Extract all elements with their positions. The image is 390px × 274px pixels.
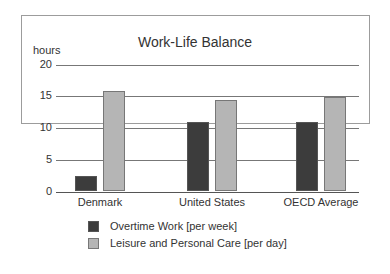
x-category-label: OECD Average (266, 196, 376, 208)
y-tick-label: 15 (30, 89, 52, 101)
bar-overtime-united-states (187, 122, 209, 192)
x-axis-line (56, 192, 359, 193)
y-tick-label: 10 (30, 121, 52, 133)
bar-leisure-oecd-average (324, 97, 346, 192)
legend-label: Leisure and Personal Care [per day] (110, 237, 287, 249)
bar-leisure-denmark (103, 91, 125, 191)
y-tick-label: 20 (30, 58, 52, 70)
bar-overtime-denmark (75, 176, 97, 191)
legend-swatch-overtime (88, 221, 99, 232)
bar-overtime-oecd-average (296, 122, 318, 192)
chart-frame (21, 15, 370, 124)
legend-label: Overtime Work [per week] (110, 220, 237, 232)
x-category-label: Denmark (45, 196, 155, 208)
y-tick-label: 5 (30, 153, 52, 165)
y-axis-label: hours (33, 44, 61, 56)
legend-swatch-leisure (88, 238, 99, 249)
x-category-label: United States (157, 196, 267, 208)
gridline (56, 96, 359, 97)
bar-leisure-united-states (215, 100, 237, 191)
gridline (56, 65, 359, 66)
